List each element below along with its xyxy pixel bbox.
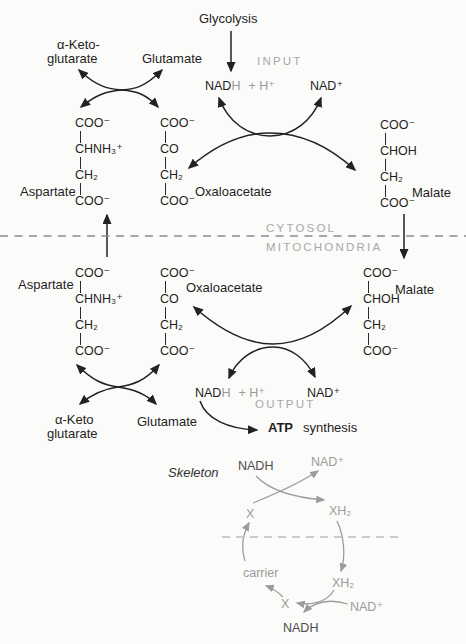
formula-group: CO <box>160 293 179 307</box>
skeleton-carrier-label: carrier <box>243 566 278 580</box>
cytosol-aspartate-structure: COO⁻ CHNH₃⁺ CH₂ COO⁻ <box>75 117 123 209</box>
formula-group: CH₂ <box>75 169 98 183</box>
cytosol-nadh-label: NADH+ H⁺ <box>205 79 275 93</box>
formula-group: CH₂ <box>380 171 403 185</box>
nadh-h: H <box>221 386 230 400</box>
formula-group: CH₂ <box>363 319 386 333</box>
cytosol-aspartate-label: Aspartate <box>20 185 76 200</box>
atp-synthesis-label: ATPsynthesis <box>268 421 357 436</box>
formula-group: COO⁻ <box>160 117 195 131</box>
cytosol-nad-label: NAD⁺ <box>310 79 343 93</box>
formula-group: COO⁻ <box>75 345 110 359</box>
mito-oxaloacetate-label: Oxaloacetate <box>186 281 263 296</box>
skeleton-title: Skeleton <box>168 466 219 481</box>
mito-malate-structure: COO⁻ CHOH CH₂ COO⁻ <box>363 267 400 359</box>
skeleton-x-bottom: X <box>281 597 289 611</box>
formula-group: COO⁻ <box>380 197 415 211</box>
nadh-h: H <box>231 79 240 93</box>
cytosol-malate-label: Malate <box>412 186 451 201</box>
nadh-prefix: NAD <box>195 386 221 400</box>
output-label: OUTPUT <box>255 398 315 411</box>
formula-group: COO⁻ <box>363 345 398 359</box>
formula-group: COO⁻ <box>75 195 110 209</box>
mito-oxaloacetate-structure: COO⁻ CO CH₂ COO⁻ <box>160 267 195 359</box>
skeleton-nad-top: NAD⁺ <box>311 454 344 469</box>
skeleton-xh2-top: XH₂ <box>329 504 351 518</box>
cytosol-malate-structure: COO⁻ CHOH CH₂ COO⁻ <box>380 119 417 211</box>
mito-malate-label: Malate <box>395 283 434 298</box>
atp-label: ATP <box>268 420 293 435</box>
cytosol-compartment-label: CYTOSOL <box>266 222 336 235</box>
cytosol-nadh-nad-curve <box>219 98 321 136</box>
formula-group: CHOH <box>380 145 417 159</box>
skeleton-x-to-carrier-arrow <box>266 586 283 597</box>
nadh-prefix: NAD <box>205 79 231 93</box>
cytosol-alpha-keto-line2: glutarate <box>47 52 98 67</box>
mito-oxaloacetate-malate-curve <box>194 306 351 344</box>
nadh-to-atp-synthesis-arrow <box>200 401 257 430</box>
cytosol-transaminase-curve-glutamate-aspartate <box>81 70 162 107</box>
skeleton-nadh-top: NADH <box>238 459 273 473</box>
glycolysis-label: Glycolysis <box>199 12 258 27</box>
formula-group: COO⁻ <box>363 267 398 281</box>
skeleton-xh2-bottom: XH₂ <box>332 576 354 590</box>
skeleton-nadh-bottom: NADH <box>283 621 318 635</box>
formula-group: CHNH₃⁺ <box>75 143 123 157</box>
mito-alpha-keto-line2: glutarate <box>47 427 98 442</box>
skeleton-xh2-membrane-crossing-arrow <box>337 521 344 571</box>
skeleton-x-top: X <box>246 507 254 521</box>
formula-group: COO⁻ <box>160 267 195 281</box>
cytosol-oxaloacetate-label: Oxaloacetate <box>195 185 272 200</box>
skeleton-nad-bottom: NAD⁺ <box>350 599 383 614</box>
formula-group: CO <box>160 143 179 157</box>
malate-aspartate-shuttle-diagram: Glycolysis INPUT NADH+ H⁺ NAD⁺ α-Keto- g… <box>0 0 466 644</box>
skeleton-nadh-to-xh2-curve <box>256 476 324 500</box>
formula-group: CH₂ <box>160 169 183 183</box>
formula-group: CH₂ <box>75 319 98 333</box>
cytosol-transaminase-curve-keto-oxaloacetate <box>79 70 158 107</box>
mito-nadh-nad-curve <box>229 347 315 378</box>
formula-group: CH₂ <box>160 319 183 333</box>
formula-group: CHNH₃⁺ <box>75 293 123 307</box>
plus-h: + H⁺ <box>248 79 274 93</box>
formula-group: COO⁻ <box>75 117 110 131</box>
cytosol-oxaloacetate-malate-curve <box>189 133 355 170</box>
formula-group: COO⁻ <box>75 267 110 281</box>
mito-aspartate-label: Aspartate <box>18 278 74 293</box>
formula-group: COO⁻ <box>160 345 195 359</box>
formula-group: COO⁻ <box>380 119 415 133</box>
formula-group: COO⁻ <box>160 195 195 209</box>
skeleton-carrier-to-x-arrow <box>243 523 249 561</box>
synthesis-label: synthesis <box>303 420 357 435</box>
mitochondria-compartment-label: MITOCHONDRIA <box>266 241 382 254</box>
skeleton-nad-to-nadh-curve <box>304 601 348 612</box>
mito-aspartate-structure: COO⁻ CHNH₃⁺ CH₂ COO⁻ <box>75 267 123 359</box>
mito-transaminase-curve-oxaloacetate-keto <box>80 365 159 404</box>
mito-glutamate-label: Glutamate <box>137 415 197 430</box>
cytosol-glutamate-label: Glutamate <box>142 52 202 67</box>
formula-group: CHOH <box>363 293 400 307</box>
input-label: INPUT <box>257 55 303 68</box>
cytosol-oxaloacetate-structure: COO⁻ CO CH₂ COO⁻ <box>160 117 195 209</box>
